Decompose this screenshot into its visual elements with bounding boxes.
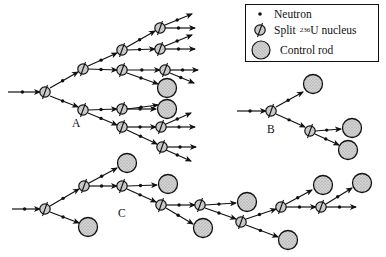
neutron-dot-icon <box>336 195 339 198</box>
split-nucleus-icon <box>276 200 286 214</box>
neutron-dot-icon <box>324 137 327 140</box>
neutron-dot-icon <box>179 76 182 79</box>
split-nucleus-icon <box>316 200 326 214</box>
neutron-path <box>89 168 117 183</box>
neutron-dot-icon <box>61 99 64 102</box>
control-rod-icon <box>339 141 358 160</box>
label-chain-b: B <box>267 123 275 135</box>
neutron-path <box>286 190 312 204</box>
control-rod-icon <box>304 75 323 94</box>
split-nucleus-icon <box>155 21 165 35</box>
control-rod-icon <box>343 119 362 138</box>
neutron-dot-icon <box>99 117 102 120</box>
neutron-dot-icon <box>298 205 301 208</box>
neutron-dot-icon <box>61 197 64 200</box>
split-nucleus-icon <box>155 42 165 56</box>
neutron-dot-icon <box>177 125 180 128</box>
control-rod-icon <box>79 218 98 237</box>
neutron-path <box>127 184 157 187</box>
neutron-dot-icon <box>138 38 141 41</box>
neutron-path <box>205 202 236 205</box>
split-nucleus-icon <box>40 202 50 216</box>
neutron-path <box>50 189 79 206</box>
neutron-dot-icon <box>138 193 141 196</box>
split-nucleus-icon <box>160 63 170 77</box>
neutron-path <box>237 109 266 112</box>
split-nucleus-icon <box>78 62 88 76</box>
neutron-path <box>127 68 160 71</box>
neutron-path <box>12 207 40 210</box>
split-nucleus-icon <box>117 102 127 116</box>
neutron-path <box>286 205 316 208</box>
legend-split-isotope: 236 <box>300 26 311 34</box>
neutron-path <box>88 68 117 71</box>
neutron-dot-icon <box>175 18 178 21</box>
neutron-path <box>89 184 117 187</box>
neutron-path <box>166 208 193 224</box>
neutron-dot-icon <box>181 68 184 71</box>
neutron-dot-icon <box>175 39 178 42</box>
control-rod-icon <box>279 231 298 250</box>
neutron-path <box>170 68 198 71</box>
neutron-path <box>276 92 303 107</box>
legend-split-suffix: U nucleus <box>310 24 356 36</box>
split-nucleus-icon <box>305 124 315 138</box>
split-nucleus-icon <box>195 198 205 212</box>
neutron-dot-icon <box>217 211 220 214</box>
neutron-dot-icon <box>99 58 102 61</box>
neutron-path <box>315 128 341 131</box>
control-rod-icon <box>246 40 276 60</box>
neutron-dot-icon <box>99 68 102 71</box>
legend: Neutron Split 236 U nucleus Control rod <box>245 4 379 62</box>
split-nucleus-icon <box>117 179 127 193</box>
neutron-dot-icon <box>61 215 64 218</box>
neutron-path <box>88 113 117 125</box>
split-nucleus-icon <box>266 104 276 118</box>
neutron-dot-icon <box>100 184 103 187</box>
neutron-path <box>8 90 40 93</box>
neutron-dot-icon <box>138 107 141 110</box>
neutron-dot-icon <box>177 47 180 50</box>
split-nucleus-icon <box>78 103 88 117</box>
neutron-path <box>127 73 158 84</box>
split-nucleus-icon <box>156 198 166 212</box>
neutron-path <box>127 31 155 47</box>
neutron-dot-icon <box>138 125 141 128</box>
legend-split-prefix: Split <box>274 24 296 36</box>
neutron-path <box>166 203 195 206</box>
neutron-dot-icon <box>177 203 180 206</box>
neutron-dot-icon <box>176 153 179 156</box>
neutron-path <box>50 212 79 223</box>
neutron-dot-icon <box>176 117 179 120</box>
neutron-dot-icon <box>286 99 289 102</box>
split-nucleus-icon <box>157 140 167 154</box>
split-nucleus-icon <box>40 85 50 99</box>
neutron-dot-icon <box>139 76 142 79</box>
neutron-path <box>50 72 78 88</box>
neutron-dot-icon <box>217 202 220 205</box>
neutron-dot-icon <box>296 196 299 199</box>
neutron-path <box>165 14 192 25</box>
neutron-dot-icon <box>178 145 181 148</box>
neutron-path <box>165 26 195 29</box>
neutron-dot-icon <box>287 118 290 121</box>
control-rod-icon <box>159 175 178 194</box>
neutron-dot-icon <box>23 207 26 210</box>
control-rod-icon <box>118 154 137 173</box>
neutron-dot-icon <box>258 213 261 216</box>
split-nucleus-icon <box>246 22 274 38</box>
neutron-path <box>165 47 195 50</box>
legend-item-split-nucleus: Split 236 U nucleus <box>246 22 357 38</box>
neutron-dot-icon <box>139 135 142 138</box>
neutron-path <box>127 130 157 144</box>
neutron-path <box>326 205 356 208</box>
split-nucleus-icon <box>156 120 166 134</box>
neutron-path <box>165 35 192 46</box>
neutron-path <box>276 114 305 127</box>
control-rods <box>79 75 372 250</box>
neutron-path <box>127 125 156 128</box>
neutron-path <box>167 145 196 148</box>
neutron-dot-icon <box>140 68 143 71</box>
legend-item-neutron: Neutron <box>246 8 312 20</box>
neutron-dot-icon <box>139 184 142 187</box>
